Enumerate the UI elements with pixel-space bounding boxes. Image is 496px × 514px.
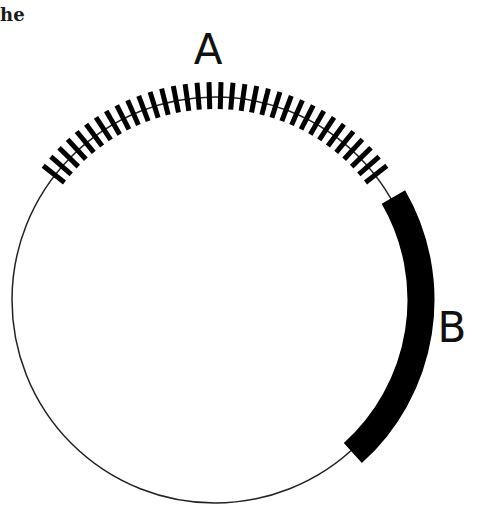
circular-map-diagram: A B — [0, 0, 496, 514]
region-a-tick — [209, 82, 210, 109]
region-a-tick — [197, 83, 199, 110]
region-a-label: A — [194, 25, 223, 74]
region-b-label: B — [438, 303, 467, 352]
region-a-tick — [252, 86, 257, 113]
region-a-tick — [173, 86, 178, 113]
region-a-tick — [185, 84, 189, 111]
region-a-tick — [310, 111, 323, 134]
region-a-tick — [231, 83, 233, 110]
region-a-tick — [162, 89, 169, 115]
region-b-solid-arc — [353, 197, 421, 453]
region-a-tick — [220, 82, 221, 109]
region-a-tick — [106, 111, 119, 134]
region-a-tick — [262, 89, 269, 115]
region-a-tick — [241, 84, 245, 111]
